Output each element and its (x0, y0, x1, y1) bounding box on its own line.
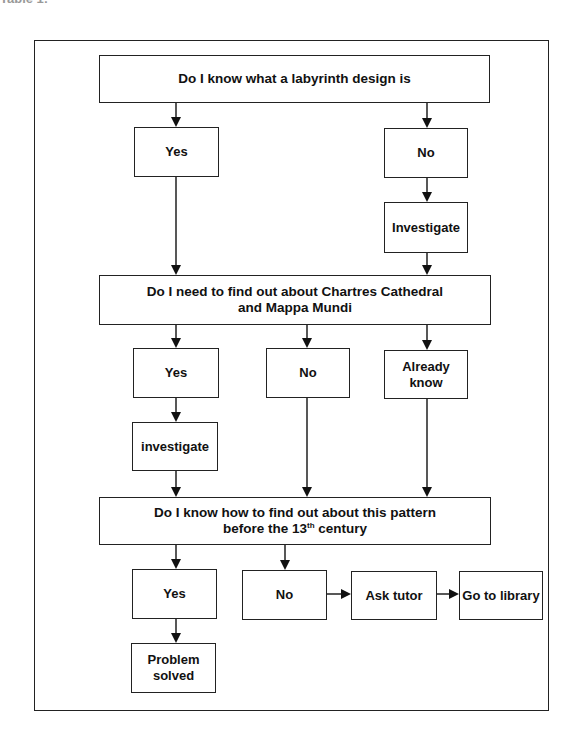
edge-q1-no-to-investigate (422, 178, 432, 202)
arrowhead-icon (171, 559, 181, 569)
edge-q2-to-q2-yes (171, 325, 181, 348)
edge-q2-no-to-q3 (302, 398, 312, 497)
arrowhead-icon (422, 118, 432, 128)
arrowhead-icon (422, 487, 432, 497)
edge-q1-yes-to-q2 (171, 177, 181, 275)
arrowhead-icon (280, 560, 290, 570)
node-q3-no: No (242, 570, 327, 620)
node-q3-go-to-library-label: Go to library (462, 588, 539, 604)
edge-q2-yes-to-investigate (171, 398, 181, 422)
node-q1-no-label: No (417, 145, 434, 161)
node-q3: Do I know how to find out about this pat… (99, 497, 491, 545)
node-q3-ask-tutor-label: Ask tutor (365, 588, 422, 604)
node-q3-label-sup: th (307, 521, 315, 530)
edge-q2-already-to-q3 (422, 399, 432, 497)
node-q1-no: No (384, 128, 468, 178)
arrowhead-icon (171, 412, 181, 422)
node-q1-yes: Yes (134, 127, 219, 177)
node-q1-label: Do I know what a labyrinth design is (178, 71, 411, 87)
node-q1-investigate-label: Investigate (392, 220, 460, 236)
arrowhead-icon (171, 338, 181, 348)
node-q2-already-know: Already know (384, 350, 468, 399)
arrowhead-icon (302, 487, 312, 497)
arrowhead-icon (171, 117, 181, 127)
edge-q3-to-q3-no (280, 545, 290, 570)
node-q3-no-label: No (276, 587, 293, 603)
edge-q1-to-q1-yes (171, 103, 181, 127)
node-q2-no-label: No (299, 365, 316, 381)
node-q2-investigate-label: investigate (141, 439, 209, 455)
edge-q3-ask-to-library (437, 589, 459, 599)
node-q2-yes: Yes (133, 348, 219, 398)
node-q1-yes-label: Yes (165, 144, 187, 160)
arrowhead-icon (171, 487, 181, 497)
arrowhead-icon (422, 192, 432, 202)
edge-q3-yes-to-solved (171, 619, 181, 643)
node-q3-ask-tutor: Ask tutor (351, 571, 437, 620)
node-q2: Do I need to find out about Chartres Cat… (99, 275, 491, 325)
node-q3-yes: Yes (132, 569, 217, 619)
node-q2-already-know-label: Already know (399, 359, 453, 391)
node-q3-label-main: Do I know how to find out about this pat… (154, 505, 436, 536)
node-q3-label-end: century (315, 521, 368, 536)
arrowhead-icon (171, 265, 181, 275)
edge-q2-to-q2-already (422, 325, 432, 350)
edge-q1-investigate-to-q2 (422, 253, 432, 275)
arrowhead-icon (302, 338, 312, 348)
node-q3-yes-label: Yes (163, 586, 185, 602)
arrowhead-icon (171, 633, 181, 643)
edge-q1-to-q1-no (422, 103, 432, 128)
arrowhead-icon (422, 265, 432, 275)
node-q1: Do I know what a labyrinth design is (99, 55, 490, 103)
node-q2-label: Do I need to find out about Chartres Cat… (140, 284, 450, 316)
edge-q2-to-q2-no (302, 325, 312, 348)
node-q3-problem-solved: Problem solved (131, 643, 216, 693)
node-q1-investigate: Investigate (384, 202, 468, 253)
arrowhead-icon (449, 589, 459, 599)
node-q3-problem-solved-label: Problem solved (146, 652, 201, 684)
node-q3-go-to-library: Go to library (459, 571, 543, 620)
edge-q3-no-to-ask (327, 589, 351, 599)
node-q2-yes-label: Yes (165, 365, 187, 381)
arrowhead-icon (422, 340, 432, 350)
node-q2-investigate: investigate (132, 422, 218, 471)
arrowhead-icon (341, 589, 351, 599)
edge-q3-to-q3-yes (171, 545, 181, 569)
node-q2-no: No (266, 348, 350, 398)
edge-q2-investigate-to-q3 (171, 471, 181, 497)
node-q3-label: Do I know how to find out about this pat… (150, 505, 440, 537)
